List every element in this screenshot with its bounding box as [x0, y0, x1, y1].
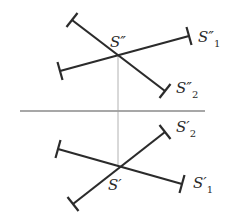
endcap-s2-top-left: [67, 13, 78, 27]
label-s-bottom: S′: [108, 176, 122, 194]
projection-diagram: S″ S″1 S″2 S′ S′2 S′1: [0, 0, 227, 216]
label-s1-bottom: S′1: [193, 174, 213, 195]
bottom-view: S′ S′2 S′1: [56, 118, 214, 211]
endcap-s2-bottom-left: [68, 197, 79, 211]
label-s2-bottom: S′2: [176, 118, 196, 139]
label-s1-top: S″1: [198, 28, 220, 49]
endcap-s2-bottom-right: [160, 125, 171, 139]
segment-s2-top: [72, 20, 165, 91]
endcap-s2-top-right: [160, 84, 171, 98]
label-s2-top: S″2: [176, 79, 198, 100]
label-s-top: S″: [110, 33, 126, 51]
top-view: S″ S″1 S″2: [58, 13, 221, 100]
